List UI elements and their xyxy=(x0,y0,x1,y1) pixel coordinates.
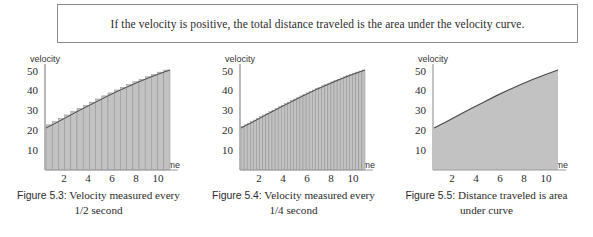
figure-5-4: velocity time 50 40 30 20 10 2 4 6 8 10 … xyxy=(195,52,392,237)
caption-label: Figure 5.4: xyxy=(212,190,262,201)
y-tick-20: 20 xyxy=(211,124,233,136)
y-tick-40: 40 xyxy=(211,84,233,96)
figure-5-3: velocity time 50 40 30 20 10 2 4 6 8 10 … xyxy=(0,52,197,237)
x-tick-10: 10 xyxy=(538,172,554,184)
y-tick-40: 40 xyxy=(404,84,426,96)
y-tick-30: 30 xyxy=(404,104,426,116)
figure-5-3-caption: Figure 5.3: Velocity measured every 1/2 … xyxy=(0,188,197,217)
x-tick-4: 4 xyxy=(468,172,484,184)
callout-text: If the velocity is positive, the total d… xyxy=(111,18,525,30)
x-tick-4: 4 xyxy=(275,172,291,184)
chart-5-3: velocity time 50 40 30 20 10 2 4 6 8 10 xyxy=(0,52,197,185)
y-tick-40: 40 xyxy=(16,84,38,96)
x-tick-6: 6 xyxy=(299,172,315,184)
x-tick-10: 10 xyxy=(150,172,166,184)
x-tick-10: 10 xyxy=(345,172,361,184)
figure-5-4-caption: Figure 5.4: Velocity measured every 1/4 … xyxy=(195,188,392,217)
caption-line1: Distance traveled is area xyxy=(458,189,568,201)
caption-line2: 1/4 second xyxy=(269,204,317,216)
x-tick-2: 2 xyxy=(56,172,72,184)
x-tick-4: 4 xyxy=(80,172,96,184)
figure-5-5-caption: Figure 5.5: Distance traveled is area un… xyxy=(388,188,585,217)
x-tick-2: 2 xyxy=(251,172,267,184)
caption-label: Figure 5.5: xyxy=(405,190,455,201)
caption-line2: under curve xyxy=(460,204,513,216)
y-tick-30: 30 xyxy=(211,104,233,116)
x-tick-2: 2 xyxy=(444,172,460,184)
y-tick-30: 30 xyxy=(16,104,38,116)
caption-line1: Velocity measured every xyxy=(69,189,180,201)
caption-line1: Velocity measured every xyxy=(264,189,375,201)
x-tick-8: 8 xyxy=(516,172,532,184)
y-tick-10: 10 xyxy=(211,144,233,156)
x-tick-6: 6 xyxy=(492,172,508,184)
chart-5-5: velocity time 50 40 30 20 10 2 4 6 8 10 xyxy=(388,52,585,185)
callout-box: If the velocity is positive, the total d… xyxy=(57,4,578,43)
y-tick-20: 20 xyxy=(16,124,38,136)
x-tick-8: 8 xyxy=(128,172,144,184)
x-tick-8: 8 xyxy=(323,172,339,184)
y-tick-50: 50 xyxy=(16,65,38,77)
y-tick-20: 20 xyxy=(404,124,426,136)
x-tick-6: 6 xyxy=(104,172,120,184)
figure-5-5: velocity time 50 40 30 20 10 2 4 6 8 10 … xyxy=(388,52,585,237)
y-tick-50: 50 xyxy=(404,65,426,77)
caption-line2: 1/2 second xyxy=(74,204,122,216)
y-tick-10: 10 xyxy=(404,144,426,156)
y-tick-50: 50 xyxy=(211,65,233,77)
y-tick-10: 10 xyxy=(16,144,38,156)
chart-5-4: velocity time 50 40 30 20 10 2 4 6 8 10 xyxy=(195,52,392,185)
caption-label: Figure 5.3: xyxy=(17,190,67,201)
